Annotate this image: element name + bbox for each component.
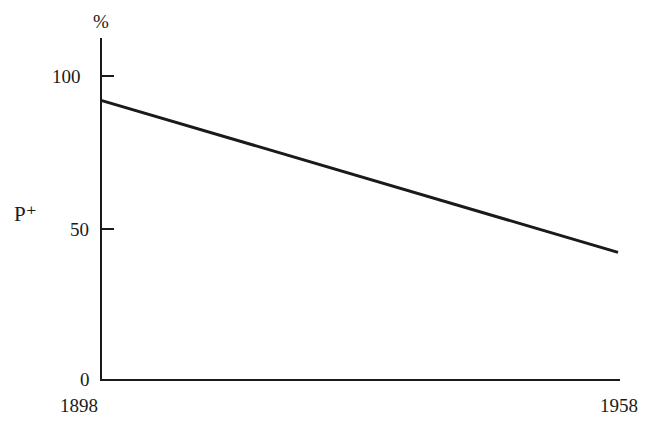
y-tick-label-0: 0 (80, 370, 90, 389)
y-axis-label: P⁺ (14, 204, 37, 225)
y-unit-label: % (93, 12, 109, 31)
x-tick-label-end: 1958 (600, 396, 638, 415)
line-chart (0, 0, 653, 429)
y-tick-label-100: 100 (52, 67, 81, 86)
y-tick-label-50: 50 (70, 220, 89, 239)
series-line (101, 100, 618, 252)
x-tick-label-start: 1898 (60, 396, 98, 415)
